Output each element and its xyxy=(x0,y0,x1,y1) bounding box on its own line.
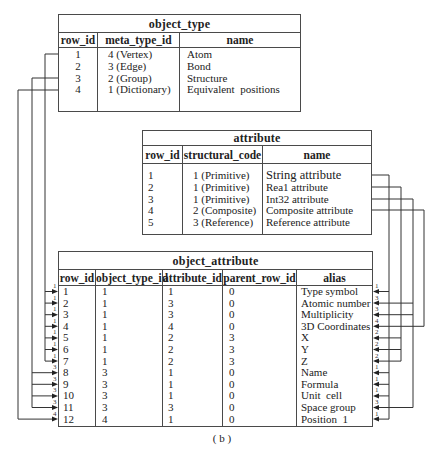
cell-alias: Position 1 xyxy=(297,414,372,426)
arrow-left-icon xyxy=(373,382,379,387)
connector-label: 1 xyxy=(53,352,57,360)
connector-label: 1 xyxy=(375,363,379,371)
column-attribute-id: attribute_id 1 3 3 4 2 2 2 1 1 1 3 1 xyxy=(162,270,222,426)
cell-parent-row-id: 0 xyxy=(223,402,296,414)
cell-alias: Name xyxy=(297,367,372,379)
cell-row-id: 8 xyxy=(59,367,95,379)
arrow-left-icon xyxy=(373,370,379,375)
connector-label: 3 xyxy=(53,363,57,371)
connector-label: 1 xyxy=(375,410,379,418)
object-type-table: object_type row_id 1 2 3 4 meta_type_id … xyxy=(58,14,301,112)
cell-alias: Space group xyxy=(297,402,372,414)
arrow-left-icon xyxy=(373,417,379,422)
cell-alias: Y xyxy=(297,344,372,356)
cell-row-id: 1 xyxy=(59,286,95,298)
column-header: row_id xyxy=(59,33,97,48)
cell-row-id: 2 xyxy=(59,61,97,73)
fk-line-object-type-3 xyxy=(32,78,58,408)
connector-label: 1 xyxy=(53,305,57,313)
column-header: structural_code xyxy=(183,146,262,164)
cell-name: String attribute xyxy=(263,170,371,182)
column-header: name xyxy=(263,146,371,164)
connector-label: 2 xyxy=(375,352,379,360)
cell-attribute-id: 1 xyxy=(163,367,222,379)
cell-attribute-id: 1 xyxy=(163,414,222,426)
arrow-left-icon xyxy=(373,312,379,317)
column-name: name Atom Bond Structure Equivalent posi… xyxy=(179,33,300,112)
connector-label: 1 xyxy=(53,294,57,302)
connector-label: 3 xyxy=(53,375,57,383)
fk-line-object-type-1 xyxy=(45,54,58,361)
cell-parent-row-id: 3 xyxy=(223,344,296,356)
cell-row-id: 1 xyxy=(143,170,182,182)
connector-label: 4 xyxy=(375,317,379,325)
arrow-left-icon xyxy=(373,393,379,398)
fk-line-attribute-1 xyxy=(372,175,389,419)
cell-attribute-id: 3 xyxy=(163,402,222,414)
connector-label: 2 xyxy=(375,340,379,348)
arrow-left-icon xyxy=(373,335,379,340)
connector-label: 3 xyxy=(53,386,57,394)
cell-row-id: 6 xyxy=(59,344,95,356)
cell-row-id: 12 xyxy=(59,414,95,426)
column-row-id: row_id 1 2 3 4 xyxy=(59,33,97,112)
cell-row-id: 5 xyxy=(143,217,182,229)
cell-structural-code: 1 (Primitive) xyxy=(183,170,262,182)
cell-meta-type-id: 3 (Edge) xyxy=(98,61,179,73)
table-title: object_type xyxy=(59,15,300,33)
connector-label: 3 xyxy=(375,294,379,302)
cell-attribute-id: 1 xyxy=(163,286,222,298)
arrow-left-icon xyxy=(373,347,379,352)
table-title: object_attribute xyxy=(59,252,372,270)
cell-object-type-id: 1 xyxy=(96,286,162,298)
cell-object-type-id: 4 xyxy=(96,414,162,426)
column-header: row_id xyxy=(143,146,182,164)
column-header: attribute_id xyxy=(163,270,222,286)
connector-label: 1 xyxy=(375,282,379,290)
column-row-id: row_id 1 2 3 4 5 xyxy=(143,146,182,234)
cell-object-type-id: 3 xyxy=(96,402,162,414)
right-connector-group: 1 3 3 4 2 2 2 1 1 1 3 1 xyxy=(372,175,424,422)
connector-label: 1 xyxy=(53,317,57,325)
connector-label: 3 xyxy=(375,305,379,313)
column-alias: alias Type symbol Atomic number Multipli… xyxy=(296,270,372,426)
cell-parent-row-id: 0 xyxy=(223,286,296,298)
connector-label: 4 xyxy=(53,410,57,418)
cell-structural-code: 3 (Reference) xyxy=(183,217,262,229)
fk-line-attribute-2 xyxy=(372,187,401,361)
column-header: object_type_id xyxy=(96,270,162,286)
cell-name: Bond xyxy=(180,61,300,73)
connector-label: 3 xyxy=(53,398,57,406)
arrow-left-icon xyxy=(373,301,379,306)
cell-parent-row-id: 0 xyxy=(223,414,296,426)
cell-name: Rea1 attribute xyxy=(263,182,371,194)
column-header: name xyxy=(180,33,300,48)
figure-caption: ( b ) xyxy=(200,432,244,444)
connector-label: 1 xyxy=(53,282,57,290)
cell-object-type-id: 3 xyxy=(96,367,162,379)
cell-alias: Type symbol xyxy=(297,286,372,298)
connector-label: 1 xyxy=(53,340,57,348)
cell-attribute-id: 2 xyxy=(163,344,222,356)
left-connector-group: 1 1 1 1 1 1 1 3 3 3 3 4 xyxy=(18,54,58,422)
column-header: meta_type_id xyxy=(98,33,179,48)
column-header: alias xyxy=(297,270,372,286)
connector-label: 1 xyxy=(53,328,57,336)
cell-object-type-id: 1 xyxy=(96,344,162,356)
cell-name: Reference attribute xyxy=(263,217,371,229)
arrow-left-icon xyxy=(373,359,379,364)
connector-label: 1 xyxy=(375,386,379,394)
cell-parent-row-id: 0 xyxy=(223,367,296,379)
column-object-type-id: object_type_id 1 1 1 1 1 1 1 3 3 3 3 4 xyxy=(95,270,162,426)
cell-row-id: 4 xyxy=(59,84,97,96)
arrow-left-icon xyxy=(373,289,379,294)
column-meta-type-id: meta_type_id 4 (Vertex) 3 (Edge) 2 (Grou… xyxy=(97,33,179,112)
column-header: parent_row_id xyxy=(223,270,296,286)
column-structural-code: structural_code 1 (Primitive) 1 (Primiti… xyxy=(182,146,262,234)
column-name: name String attribute Rea1 attribute Int… xyxy=(262,146,371,234)
cell-row-id: 2 xyxy=(143,182,182,194)
fk-line-attribute-4 xyxy=(372,210,424,326)
fk-line-attribute-3 xyxy=(372,199,413,408)
connector-label: 2 xyxy=(375,328,379,336)
fk-line-object-type-4 xyxy=(18,90,58,419)
